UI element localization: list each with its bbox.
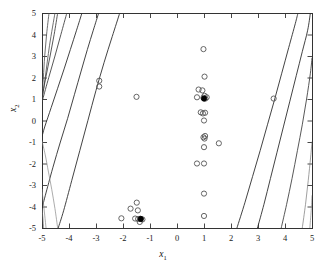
data-point-open xyxy=(194,95,199,100)
data-point-open xyxy=(128,206,133,211)
y-tick-label: -3 xyxy=(29,180,36,190)
axis-ticks xyxy=(43,14,313,229)
boundary-right-3 xyxy=(281,58,312,228)
data-point-filled xyxy=(138,216,143,221)
x-tick-label: -4 xyxy=(65,233,72,243)
data-point-open xyxy=(194,161,199,166)
data-point-open xyxy=(202,74,207,79)
y-tick-label: -2 xyxy=(29,159,36,169)
x-axis-title: x1 xyxy=(159,249,166,261)
y-axis-title: x2 xyxy=(8,105,20,112)
data-point-open xyxy=(201,161,206,166)
x-tick-label: -1 xyxy=(146,233,153,243)
y-axis-title-text: x xyxy=(8,108,18,112)
data-point-open xyxy=(201,118,206,123)
data-point-open xyxy=(201,47,206,52)
data-point-open xyxy=(135,208,140,213)
plot-canvas xyxy=(0,0,324,272)
x-tick-label: 0 xyxy=(175,233,179,243)
y-tick-label: -5 xyxy=(29,223,36,233)
x-axis-title-subscript: 1 xyxy=(163,254,166,261)
decision-boundary-curves xyxy=(42,13,312,228)
x-tick-label: 5 xyxy=(310,233,314,243)
boundary-left-2 xyxy=(42,13,67,102)
y-tick-label: 3 xyxy=(32,51,36,61)
boundary-right-2 xyxy=(257,13,310,228)
data-point-open xyxy=(271,96,276,101)
data-point-open xyxy=(119,216,124,221)
y-tick-label: -1 xyxy=(29,137,36,147)
y-tick-label: 2 xyxy=(32,73,36,83)
boundary-right-5 xyxy=(310,196,312,228)
y-tick-label: 5 xyxy=(32,8,36,18)
scatter-points xyxy=(97,47,277,225)
y-tick-label: 0 xyxy=(32,116,36,126)
x-tick-label: -3 xyxy=(92,233,99,243)
x-tick-label: 2 xyxy=(229,233,233,243)
y-tick-label: 4 xyxy=(32,30,36,40)
x-tick-label: -2 xyxy=(119,233,126,243)
data-point-filled xyxy=(201,96,206,101)
scatter-plot-figure: -5-4-3-2-1012345 543210-1-2-3-4-5 x1 x2 xyxy=(0,0,324,272)
data-point-open xyxy=(201,213,206,218)
x-tick-label: 3 xyxy=(256,233,260,243)
data-point-open xyxy=(134,94,139,99)
y-tick-label: 1 xyxy=(32,94,36,104)
data-point-open xyxy=(201,145,206,150)
x-tick-label: -5 xyxy=(38,233,45,243)
data-point-open xyxy=(201,191,206,196)
data-point-open xyxy=(216,141,221,146)
x-tick-label: 1 xyxy=(202,233,206,243)
y-axis-title-subscript: 2 xyxy=(13,105,20,108)
y-tick-label: -4 xyxy=(29,202,36,212)
plot-frame xyxy=(43,14,313,229)
x-tick-label: 4 xyxy=(283,233,287,243)
data-point-open xyxy=(200,88,205,93)
data-point-open xyxy=(134,200,139,205)
